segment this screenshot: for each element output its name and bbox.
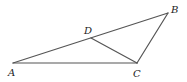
label-a: A (7, 67, 15, 78)
segment-bc (137, 13, 168, 63)
triangle-diagram: A B C D (0, 0, 187, 82)
label-d: D (83, 25, 92, 36)
label-c: C (133, 68, 141, 79)
segment-dc (91, 38, 137, 63)
label-b: B (170, 4, 178, 15)
